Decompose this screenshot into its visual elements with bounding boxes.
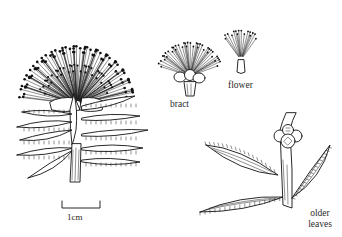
- label-bract: bract: [170, 99, 189, 110]
- flowering-shoot-drawing: [17, 45, 148, 182]
- scale-bar-label: 1cm: [67, 212, 83, 223]
- scale-bar: [62, 201, 100, 208]
- older-leaves-drawing: [200, 113, 331, 215]
- label-flower: flower: [228, 80, 253, 91]
- flower-drawing: [224, 30, 257, 74]
- botanical-illustration: bract flower older leaves 1cm: [0, 0, 342, 237]
- illustration-drawing: [0, 0, 342, 237]
- bract-drawing: [158, 42, 221, 96]
- label-older-leaves: older leaves: [300, 208, 340, 230]
